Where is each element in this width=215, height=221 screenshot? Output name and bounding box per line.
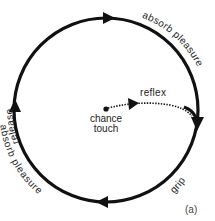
figure-label: (a) xyxy=(185,204,197,215)
arrow-down-icon xyxy=(191,117,204,131)
chance-touch-dot xyxy=(103,106,108,111)
absorb-pleasure-top-label: absorb pleasure xyxy=(141,9,206,68)
arrow-right-icon xyxy=(103,12,115,24)
reflex-arrow-icon xyxy=(128,98,139,110)
cycle-diagram: reflex chance touch release absorb pleas… xyxy=(0,0,215,221)
chance-touch-label-line2: touch xyxy=(94,123,118,134)
arrow-left-icon xyxy=(96,196,108,208)
reflex-join xyxy=(184,107,196,118)
reflex-label: reflex xyxy=(140,87,166,98)
absorb-pleasure-bottom-label: absorb pleasure xyxy=(0,124,45,197)
